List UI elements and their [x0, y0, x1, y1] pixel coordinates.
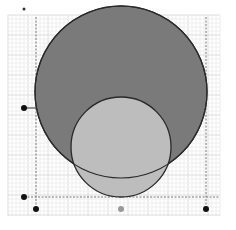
- radius-handle-left[interactable]: [21, 105, 27, 111]
- bottom-center-handle[interactable]: [118, 206, 124, 212]
- corner-left-handle[interactable]: [21, 194, 27, 200]
- circles: [35, 6, 207, 197]
- diagram-svg: [0, 0, 236, 230]
- bottom-left-handle[interactable]: [33, 206, 39, 212]
- small-circle[interactable]: [71, 97, 171, 197]
- diagram-canvas: [0, 0, 236, 230]
- bottom-right-handle[interactable]: [203, 206, 209, 212]
- top-left-marker[interactable]: [23, 8, 26, 11]
